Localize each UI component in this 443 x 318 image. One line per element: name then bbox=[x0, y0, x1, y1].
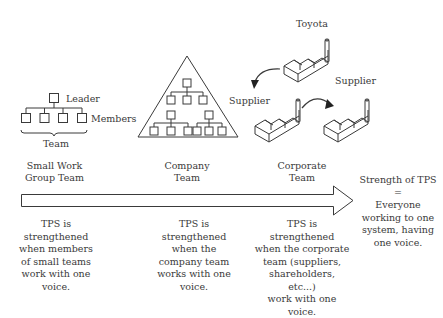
title-line: Company bbox=[157, 160, 217, 172]
small-work-group-title: Small Work Group Team bbox=[22, 160, 87, 184]
leader-box bbox=[50, 94, 59, 103]
supplier-left-label: Supplier bbox=[229, 95, 270, 107]
arrowhead-down bbox=[251, 80, 259, 89]
text-line: Strength of TPS bbox=[353, 174, 443, 187]
text-line: strengthened bbox=[14, 231, 98, 244]
text-line: when members bbox=[14, 243, 98, 256]
text-line: = bbox=[353, 187, 443, 200]
members-label: Members bbox=[91, 113, 136, 125]
text-line: system, having bbox=[353, 224, 443, 237]
text-line: one voice. bbox=[353, 237, 443, 250]
text-line: when the bbox=[152, 243, 236, 256]
arrowhead-right bbox=[325, 99, 334, 109]
team-label: Team bbox=[43, 138, 69, 150]
team-brace bbox=[21, 130, 87, 136]
leader-label: Leader bbox=[66, 93, 100, 105]
text-line: work with one bbox=[14, 268, 98, 281]
text-line: team (suppliers, bbox=[254, 256, 350, 269]
member-box bbox=[22, 114, 31, 123]
text-line: TPS is bbox=[14, 218, 98, 231]
title-line: Group Team bbox=[22, 172, 87, 184]
toyota-label: Toyota bbox=[296, 18, 328, 30]
text-line: voice. bbox=[14, 281, 98, 294]
text-line: company team bbox=[152, 256, 236, 269]
text-line: working to one bbox=[353, 212, 443, 225]
text-line: shareholders, etc...) bbox=[254, 268, 350, 293]
text-line: works with one bbox=[152, 268, 236, 281]
text-line: voice. bbox=[152, 281, 236, 294]
corporate-team-title: Corporate Team bbox=[272, 160, 332, 184]
company-team-description: TPS is strengthened when the company tea… bbox=[152, 218, 236, 293]
member-box bbox=[40, 114, 49, 123]
text-line: when the corporate bbox=[254, 243, 350, 256]
progression-arrow bbox=[22, 186, 354, 215]
supplier-right-label: Supplier bbox=[335, 75, 376, 87]
corporate-team-description: TPS is strengthened when the corporate t… bbox=[254, 218, 350, 318]
toyota-factory-icon bbox=[284, 39, 329, 82]
text-line: of small teams bbox=[14, 256, 98, 269]
strength-of-tps-text: Strength of TPS = Everyone working to on… bbox=[353, 174, 443, 249]
text-line: work with one voice. bbox=[254, 293, 350, 318]
title-line: Small Work bbox=[22, 160, 87, 172]
title-line: Team bbox=[272, 172, 332, 184]
title-line: Corporate bbox=[272, 160, 332, 172]
text-line: TPS is strengthened bbox=[254, 218, 350, 243]
title-line: Team bbox=[157, 172, 217, 184]
text-line: TPS is bbox=[152, 218, 236, 231]
text-line: Everyone bbox=[353, 199, 443, 212]
member-box bbox=[78, 114, 87, 123]
member-box bbox=[59, 114, 68, 123]
company-team-title: Company Team bbox=[157, 160, 217, 184]
company-pyramid bbox=[138, 56, 238, 137]
text-line: strengthened bbox=[152, 231, 236, 244]
small-team-description: TPS is strengthened when members of smal… bbox=[14, 218, 98, 293]
